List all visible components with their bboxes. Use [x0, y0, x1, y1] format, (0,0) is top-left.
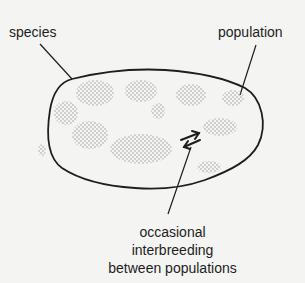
- interbreeding-label: occasional interbreeding between populat…: [20, 223, 305, 277]
- population-blob: [222, 90, 244, 106]
- population-blob: [203, 118, 237, 136]
- species-leader-line: [40, 44, 72, 79]
- population-blob: [38, 144, 46, 156]
- population-blob: [176, 84, 206, 106]
- interbreeding-label-line-2: interbreeding: [20, 241, 305, 259]
- population-blob: [110, 134, 172, 164]
- population-leader-line: [240, 45, 256, 95]
- interbreeding-arrows-icon: [181, 131, 200, 149]
- population-blob: [54, 101, 78, 125]
- population-label: population: [218, 24, 283, 41]
- population-blob: [125, 80, 157, 102]
- population-blob: [197, 161, 221, 173]
- interbreeding-label-line-3: between populations: [20, 259, 305, 277]
- population-blob: [151, 103, 165, 119]
- population-blob: [76, 80, 114, 106]
- species-label: species: [9, 24, 56, 41]
- interbreeding-label-line-1: occasional: [20, 223, 305, 241]
- population-blob: [72, 121, 108, 149]
- interbreeding-leader-line: [168, 147, 191, 214]
- populations: [38, 80, 244, 173]
